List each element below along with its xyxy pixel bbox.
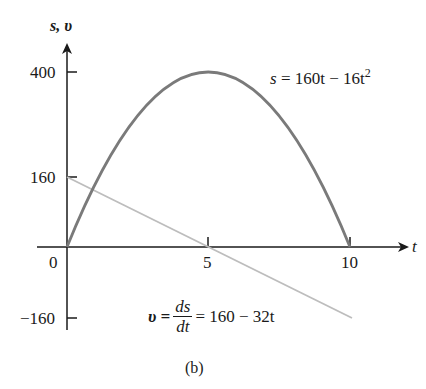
velocity-eq-denominator: dt <box>176 317 189 335</box>
position-eq-rhs: = 160t − 16t <box>281 69 365 88</box>
velocity-eq-rhs: = 160 − 32t <box>195 308 274 325</box>
tick-label-neg160: −160 <box>20 310 55 327</box>
figure-caption: (b) <box>185 360 204 376</box>
position-eq-exponent: 2 <box>365 66 371 80</box>
velocity-eq-lhs: υ = <box>148 308 170 325</box>
tick-label-5: 5 <box>203 254 212 271</box>
tick-label-160: 160 <box>30 169 56 186</box>
position-equation: s = 160t − 16t2 <box>270 67 371 87</box>
position-eq-lhs: s <box>270 69 277 88</box>
series-position <box>67 72 350 247</box>
x-axis-label: t <box>412 238 417 255</box>
tick-label-10: 10 <box>341 254 358 271</box>
y-axis-label: s, υ <box>50 18 72 34</box>
tick-label-0: 0 <box>49 254 58 271</box>
velocity-equation: υ = ds dt = 160 − 32t <box>148 298 275 335</box>
velocity-eq-fraction: ds dt <box>173 298 192 335</box>
velocity-eq-numerator: ds <box>173 298 192 317</box>
tick-label-400: 400 <box>30 64 56 81</box>
